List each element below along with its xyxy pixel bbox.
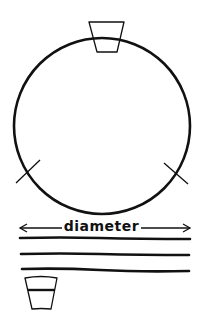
left-mark-icon bbox=[16, 160, 40, 183]
right-mark-icon bbox=[164, 163, 188, 184]
strand-2 bbox=[21, 254, 189, 256]
diagram-canvas bbox=[0, 0, 203, 327]
circle-outline bbox=[14, 38, 190, 214]
diameter-label: diameter bbox=[0, 218, 203, 234]
strands bbox=[20, 238, 190, 272]
bottom-cup-icon bbox=[25, 277, 57, 310]
strand-1 bbox=[20, 238, 190, 240]
diameter-label-text: diameter bbox=[62, 218, 141, 234]
strand-3 bbox=[22, 269, 189, 272]
